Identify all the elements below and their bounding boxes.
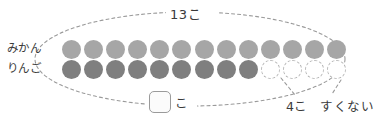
dot-filled-ringo	[150, 60, 169, 79]
dot-filled-ringo	[239, 60, 258, 79]
difference-count-label: 4こ	[286, 96, 308, 115]
dot-row-mikan	[62, 40, 346, 59]
answer-input-box[interactable]	[149, 91, 171, 113]
dot-filled-mikan	[84, 40, 103, 59]
dot-filled-mikan	[150, 40, 169, 59]
answer-unit-label: こ	[175, 93, 188, 112]
dot-filled-mikan	[283, 40, 302, 59]
dot-filled-ringo	[62, 60, 81, 79]
answer-group: こ	[149, 91, 188, 113]
dot-empty-ringo	[305, 60, 324, 79]
dot-filled-ringo	[106, 60, 125, 79]
dot-empty-ringo	[283, 60, 302, 79]
dot-filled-ringo	[84, 60, 103, 79]
dot-filled-mikan	[172, 40, 191, 59]
dot-empty-ringo	[261, 60, 280, 79]
dot-filled-ringo	[172, 60, 191, 79]
dot-filled-mikan	[195, 40, 214, 59]
dot-filled-mikan	[128, 40, 147, 59]
dot-filled-mikan	[305, 40, 324, 59]
dot-filled-mikan	[217, 40, 236, 59]
dot-filled-mikan	[327, 40, 346, 59]
group-ellipse	[35, 12, 345, 106]
dot-filled-mikan	[239, 40, 258, 59]
dot-filled-mikan	[62, 40, 81, 59]
total-count-label: 13こ	[170, 4, 201, 23]
dot-row-ringo	[62, 60, 346, 79]
difference-leader-line	[281, 78, 295, 95]
dot-filled-mikan	[106, 40, 125, 59]
dot-filled-ringo	[128, 60, 147, 79]
dot-filled-ringo	[195, 60, 214, 79]
dot-filled-ringo	[217, 60, 236, 79]
worksheet-diagram: みかん りんご 13こ こ 4こ すくない	[0, 0, 381, 119]
row-label-ringo: りんご	[7, 59, 41, 75]
dot-filled-mikan	[261, 40, 280, 59]
comparison-word-label: すくない	[320, 96, 374, 115]
dot-empty-ringo	[327, 60, 346, 79]
difference-leader-line-right	[332, 80, 341, 94]
row-label-mikan: みかん	[7, 39, 41, 55]
